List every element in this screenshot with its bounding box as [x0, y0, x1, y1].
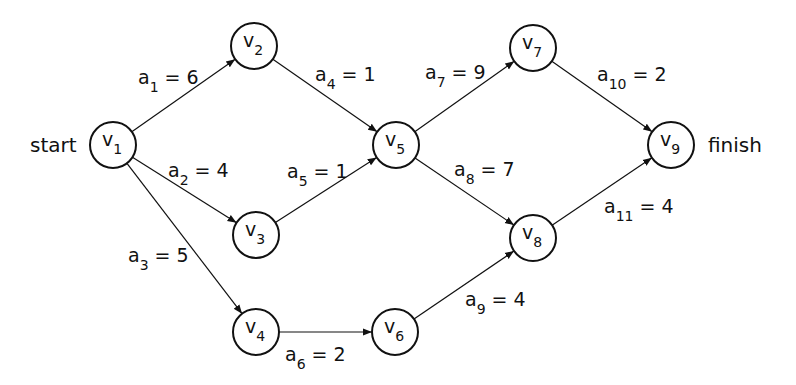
node-v1: v1 — [90, 122, 136, 168]
edge-label-a9: a9 = 4 — [465, 288, 526, 317]
edge-label-a6: a6 = 2 — [285, 343, 346, 372]
edge-label-a7: a7 = 9 — [425, 61, 486, 90]
start-label: start — [30, 133, 77, 157]
node-v5: v5 — [373, 122, 419, 168]
node-v9: v9 — [648, 122, 694, 168]
edge-label-a5: a5 = 1 — [287, 160, 348, 189]
finish-label: finish — [708, 133, 762, 157]
node-v6: v6 — [372, 309, 418, 355]
edge-label-a4: a4 = 1 — [315, 63, 376, 92]
node-v7: v7 — [510, 25, 556, 71]
node-v4: v4 — [233, 309, 279, 355]
diagram-svg: v1v2v3v4v5v6v7v8v9 a1 = 6a2 = 4a3 = 5a4 … — [0, 0, 796, 385]
edge-label-a10: a10 = 2 — [597, 63, 667, 92]
edge-label-a8: a8 = 7 — [454, 158, 515, 187]
activity-network-diagram: v1v2v3v4v5v6v7v8v9 a1 = 6a2 = 4a3 = 5a4 … — [0, 0, 796, 385]
edge-label-a2: a2 = 4 — [168, 159, 229, 188]
node-v3: v3 — [233, 212, 279, 258]
edge-label-a11: a11 = 4 — [604, 195, 674, 224]
edge-label-a3: a3 = 5 — [128, 244, 189, 273]
node-v8: v8 — [510, 215, 556, 261]
edges-group — [127, 59, 652, 332]
node-v2: v2 — [231, 23, 277, 69]
